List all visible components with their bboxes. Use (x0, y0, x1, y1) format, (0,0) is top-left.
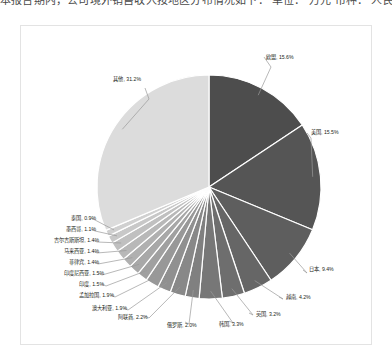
pie-label-philippines: 菲律宾, 1.4% (69, 259, 99, 265)
pie-label-india: 印度, 1.5% (79, 281, 104, 287)
pie-label-japan: 日本, 9.4% (309, 266, 334, 272)
chart-frame: 欧盟, 15.6% 美国, 15.5% 日本, 9.4% 越南, 4.2% 英国… (20, 25, 372, 345)
pie-label-eu: 欧盟, 15.6% (266, 54, 294, 60)
pie-label-russia: 俄罗斯, 2.0% (167, 322, 197, 328)
pie-chart[interactable]: 欧盟, 15.6% 美国, 15.5% 日本, 9.4% 越南, 4.2% 英国… (21, 26, 373, 346)
pie-chart-svg (21, 26, 373, 346)
pie-label-thailand: 泰国, 0.9% (71, 215, 96, 221)
pie-label-uae: 阿联酋, 2.2% (118, 314, 148, 320)
pie-label-mexico: 墨西哥, 1.1% (66, 226, 96, 232)
pie-label-australia: 澳大利亚, 1.9% (92, 305, 127, 311)
pie-leader-line (111, 277, 156, 297)
pie-label-malaysia: 马来西亚, 1.4% (64, 248, 99, 254)
pie-label-us: 美国, 15.5% (311, 129, 339, 135)
pie-label-kyrgyzstan: 吉尔吉斯斯坦, 1.4% (54, 237, 99, 243)
pie-label-uk: 英国, 3.2% (256, 311, 281, 317)
pie-label-other: 其他, 31.2% (113, 76, 141, 82)
clipped-heading-row: 本报告期内，公司境外销售收入按地区分布情况如下： 单位： 万元 币种： 人民币 (0, 0, 392, 10)
pie-slices-group (97, 75, 321, 299)
pie-label-bangladesh: 孟加拉国, 1.9% (79, 292, 114, 298)
pie-label-korea: 韩国, 3.3% (219, 321, 244, 327)
clipped-heading-text: 本报告期内，公司境外销售收入按地区分布情况如下： 单位： 万元 币种： 人民币 (0, 0, 392, 10)
pie-leader-line (255, 281, 283, 299)
pie-label-vietnam: 越南, 4.2% (286, 294, 311, 300)
pie-label-indonesia: 印度尼西亚, 1.5% (64, 270, 104, 276)
